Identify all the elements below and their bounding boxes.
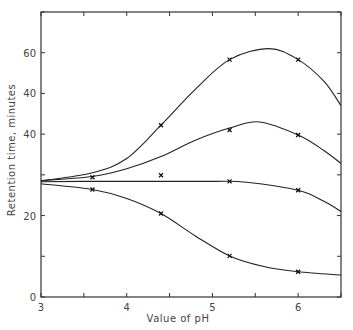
x-tick-label: 3 xyxy=(38,302,44,313)
axis-labels: 3456020404060Value of pHRetention time, … xyxy=(6,48,301,324)
axes xyxy=(41,12,341,297)
series-line-curve-2 xyxy=(41,122,341,181)
series-line-curve-1 xyxy=(41,49,341,181)
data-point-marker xyxy=(296,58,300,62)
y-tick-label: 20 xyxy=(23,211,36,222)
y-tick-label: 40 xyxy=(23,129,36,140)
y-tick-label: 40 xyxy=(23,88,36,99)
data-point-marker xyxy=(90,175,94,179)
x-tick-label: 6 xyxy=(295,302,301,313)
x-axis-title: Value of pH xyxy=(147,313,210,324)
y-tick-label: 0 xyxy=(30,292,36,303)
x-tick-label: 4 xyxy=(124,302,130,313)
data-point-marker xyxy=(296,133,300,137)
series-line-curve-3 xyxy=(41,181,341,211)
y-axis-title: Retention time, minutes xyxy=(6,84,17,216)
data-point-marker xyxy=(159,212,163,216)
plot-frame xyxy=(41,12,341,297)
series-line-curve-4 xyxy=(41,184,341,275)
data-point-marker xyxy=(228,128,232,132)
data-point-marker xyxy=(228,254,232,258)
x-tick-label: 5 xyxy=(209,302,215,313)
series-group xyxy=(41,49,341,275)
data-point-marker xyxy=(228,58,232,62)
y-tick-label: 60 xyxy=(23,48,36,59)
data-point-marker xyxy=(159,173,163,177)
data-point-marker xyxy=(159,123,163,127)
chart-canvas: 3456020404060Value of pHRetention time, … xyxy=(0,0,353,330)
